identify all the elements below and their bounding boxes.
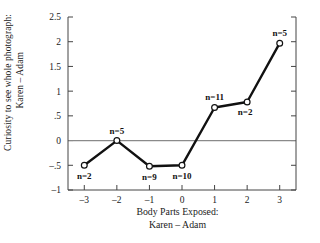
data-point-marker (212, 105, 218, 111)
data-point-label: n=9 (142, 172, 157, 182)
y-tick-label: 0 (56, 136, 61, 146)
x-tick-label-group: –3–2–10123 (79, 195, 283, 205)
x-tick-label: 2 (245, 195, 250, 205)
x-axis-title-line2: Karen – Adam (55, 218, 300, 231)
x-tick-label: –3 (79, 195, 90, 205)
y-tick-mark-group (68, 17, 73, 190)
data-series-line (84, 43, 279, 166)
y-tick-label: 1 (56, 87, 61, 97)
data-point-label: n=2 (238, 107, 253, 117)
y-tick-label: 2 (56, 37, 61, 47)
x-tick-label: 1 (212, 195, 217, 205)
data-point-marker (244, 99, 250, 105)
y-tick-label: –1 (51, 185, 62, 195)
y-tick-label: –.5 (48, 161, 61, 171)
y-tick-label-group: –1–.50.511.522.5 (48, 12, 61, 195)
x-tick-label: –1 (144, 195, 155, 205)
chart-container: Curiosity to see whole photograph: Karen… (0, 0, 320, 243)
x-tick-mark-group (84, 185, 279, 190)
right-y-tick-mark-group (291, 17, 296, 190)
y-tick-label: 2.5 (49, 12, 61, 22)
data-point-label: n=2 (77, 171, 92, 181)
data-point-label: n=5 (110, 126, 125, 136)
x-tick-label: 3 (277, 195, 282, 205)
data-point-marker (114, 138, 120, 144)
x-tick-label: 0 (180, 195, 185, 205)
data-point-label: n=5 (272, 28, 287, 38)
data-point-marker (277, 40, 283, 46)
y-tick-label: 1.5 (49, 62, 61, 72)
x-axis-title: Body Parts Exposed: Karen – Adam (55, 205, 300, 231)
y-tick-label: .5 (54, 111, 61, 121)
data-point-marker-group (81, 40, 282, 169)
data-point-marker (147, 163, 153, 169)
x-axis-title-line1: Body Parts Exposed: (55, 205, 300, 218)
data-point-label-group: n=2n=5n=9n=10n=11n=2n=5 (77, 28, 288, 182)
data-point-marker (179, 162, 185, 168)
data-point-label: n=10 (172, 171, 192, 181)
x-tick-label: –2 (111, 195, 122, 205)
data-point-marker (81, 162, 87, 168)
data-point-label: n=11 (205, 92, 224, 102)
